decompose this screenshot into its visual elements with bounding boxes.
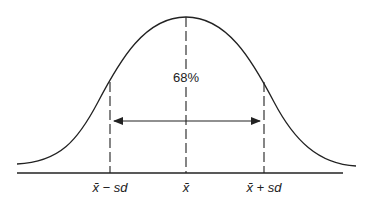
minus-sd-label: x̄ − sd	[91, 180, 128, 195]
center-percentage-label: 68%	[173, 70, 199, 85]
normal-distribution-diagram: 68% x̄ − sd x̄ x̄ + sd	[0, 0, 372, 206]
mean-label: x̄	[182, 180, 190, 195]
plus-sd-label: x̄ + sd	[245, 180, 282, 195]
